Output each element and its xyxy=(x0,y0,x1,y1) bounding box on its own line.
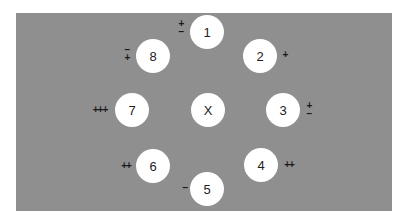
mark-2: + xyxy=(283,51,288,59)
node-4: 4 xyxy=(244,148,278,182)
node-8: 8 xyxy=(136,39,170,73)
node-2: 2 xyxy=(243,39,277,73)
mark-1: + − xyxy=(179,20,184,36)
node-6: 6 xyxy=(136,149,170,183)
mark-8: − + xyxy=(125,46,130,62)
center-node: X xyxy=(191,93,225,127)
mark-4: ++ xyxy=(284,161,294,169)
node-7: 7 xyxy=(115,93,149,127)
mark-7: +++ xyxy=(93,106,108,114)
mark-5: − xyxy=(183,184,188,192)
mark-6: ++ xyxy=(121,162,131,170)
node-3: 3 xyxy=(266,93,300,127)
node-1: 1 xyxy=(190,15,224,49)
mark-3: + − xyxy=(307,102,312,118)
node-5: 5 xyxy=(190,172,224,206)
